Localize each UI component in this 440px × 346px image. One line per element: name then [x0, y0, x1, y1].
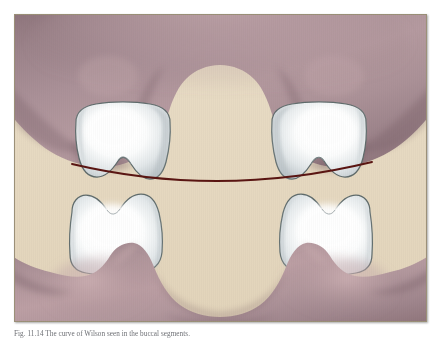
figure-page: Fig. 11.14 The curve of Wilson seen in t… — [0, 0, 440, 346]
dental-illustration-svg — [14, 14, 427, 322]
dental-illustration-panel — [14, 14, 427, 322]
figure-caption: Fig. 11.14 The curve of Wilson seen in t… — [14, 330, 426, 339]
